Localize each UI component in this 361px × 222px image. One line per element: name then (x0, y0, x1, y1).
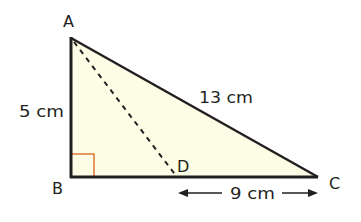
vertex-label-d: D (177, 157, 189, 176)
vertex-label-a: A (63, 12, 74, 31)
measurement-dc: 9 cm (230, 184, 275, 203)
measurement-ab: 5 cm (19, 102, 64, 121)
triangle-diagram: A B C D 5 cm 13 cm 9 cm (0, 0, 361, 222)
arrowhead-right-icon (308, 189, 318, 197)
arrowhead-left-icon (178, 189, 188, 197)
vertex-label-c: C (329, 174, 340, 193)
measurement-ac: 13 cm (199, 88, 253, 107)
vertex-label-b: B (52, 179, 63, 198)
